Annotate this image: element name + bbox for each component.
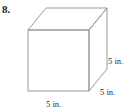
cube-top-face xyxy=(28,8,107,30)
cube-front-face xyxy=(28,30,89,91)
cube-figure: 8. 5 in. 5 in. 5 in. xyxy=(0,0,138,112)
width-dimension-label: 5 in. xyxy=(46,99,61,109)
height-dimension-label: 5 in. xyxy=(108,56,123,66)
depth-dimension-label: 5 in. xyxy=(100,87,115,97)
cube-right-face xyxy=(89,8,107,91)
